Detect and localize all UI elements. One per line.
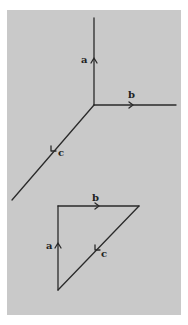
bottom-label-b: b: [92, 193, 99, 203]
top-label-b: b: [128, 90, 135, 100]
bottom-vector-c-line: [58, 206, 139, 290]
bottom-label-c: c: [101, 249, 107, 259]
top-label-c: c: [58, 148, 64, 158]
top-label-a: a: [81, 55, 87, 65]
top-vector-c-line: [12, 105, 94, 200]
bottom-label-a: a: [46, 241, 52, 251]
vector-diagram: [0, 0, 188, 325]
